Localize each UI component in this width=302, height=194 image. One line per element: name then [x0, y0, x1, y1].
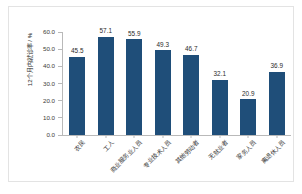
bar-slot[interactable]: 57.1	[92, 32, 121, 135]
x-axis-line	[62, 135, 291, 136]
chart-frame: 12个月内就诊率 / % 60.050.040.030.020.010.00.0…	[8, 6, 294, 182]
bar[interactable]	[240, 99, 256, 135]
x-axis-tick-mark	[105, 135, 106, 138]
bar[interactable]	[69, 57, 85, 135]
y-axis-tick: 40.0	[9, 62, 62, 70]
bar-value-label: 36.9	[271, 62, 283, 70]
x-axis-label: 家务人员	[235, 139, 257, 161]
y-axis-tick: 60.0	[9, 28, 62, 36]
bar-value-label: 45.5	[71, 47, 83, 55]
x-axis-label: 其他劳动者	[174, 139, 200, 165]
y-axis-tick: 10.0	[9, 114, 62, 122]
bar[interactable]	[126, 39, 142, 135]
y-axis-tick-label: 20.0	[43, 97, 55, 105]
bar[interactable]	[155, 50, 171, 135]
bar-slot[interactable]: 45.5	[63, 32, 92, 135]
bar-slot[interactable]: 36.9	[263, 32, 292, 135]
bar-slot[interactable]: 49.3	[149, 32, 178, 135]
y-axis-tick-label: 10.0	[43, 114, 55, 122]
x-axis-label: 无就业者	[207, 139, 229, 161]
bar-value-label: 57.1	[100, 27, 112, 35]
x-axis-tick-mark	[162, 135, 163, 138]
x-axis-tick-mark	[77, 135, 78, 138]
x-axis-tick-mark	[276, 135, 277, 138]
bar[interactable]	[269, 72, 285, 135]
x-axis-tick-mark	[191, 135, 192, 138]
x-axis-label-group: 农民工人商业服务业人员专业技术人员其他劳动者无就业者家务人员离退休人员	[63, 139, 291, 185]
y-axis-tick: 0.0	[9, 131, 62, 139]
bar-slot[interactable]: 46.7	[177, 32, 206, 135]
bar[interactable]	[98, 37, 114, 135]
bar-slot[interactable]: 55.9	[120, 32, 149, 135]
bar-slot[interactable]: 32.1	[206, 32, 235, 135]
x-axis-tick-mark	[219, 135, 220, 138]
bar[interactable]	[212, 80, 228, 135]
y-axis-tick: 20.0	[9, 97, 62, 105]
x-axis-label: 工人	[101, 139, 114, 152]
y-axis-tick-label: 40.0	[43, 62, 55, 70]
bar-slot[interactable]: 20.9	[234, 32, 263, 135]
x-axis-label: 农民	[73, 139, 86, 152]
y-axis-tick-label: 50.0	[43, 45, 55, 53]
x-axis-label: 离退休人员	[260, 139, 286, 165]
y-axis-tick-label: 60.0	[43, 28, 55, 36]
bar-value-label: 55.9	[128, 30, 140, 38]
bar-value-label: 32.1	[214, 70, 226, 78]
y-axis-tick: 50.0	[9, 45, 62, 53]
y-axis-tick-label: 30.0	[43, 80, 55, 88]
x-axis-tick-mark	[248, 135, 249, 138]
x-axis-label: 专业技术人员	[141, 139, 171, 169]
y-axis-tick-label: 0.0	[46, 131, 55, 139]
bar-value-label: 20.9	[242, 90, 254, 98]
x-axis-tick-mark	[134, 135, 135, 138]
bar-chart-figure: 12个月内就诊率 / % 60.050.040.030.020.010.00.0…	[0, 0, 302, 194]
y-axis-tick: 30.0	[9, 80, 62, 88]
bar[interactable]	[183, 55, 199, 135]
bar-value-label: 46.7	[185, 45, 197, 53]
y-axis-title: 12个月内就诊率 / %	[25, 12, 34, 108]
bars-layer: 45.557.155.949.346.732.120.936.9	[63, 32, 291, 135]
bar-value-label: 49.3	[157, 41, 169, 49]
